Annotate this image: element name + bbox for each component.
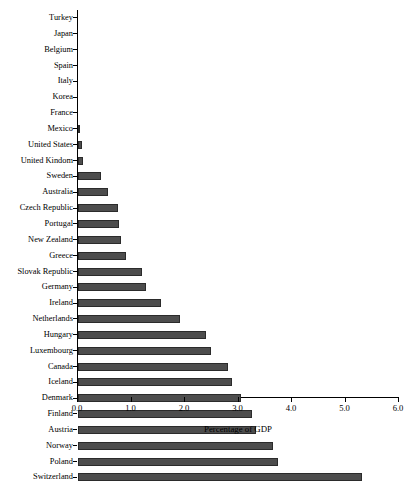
- x-axis-title: Percentage of GDP: [77, 424, 399, 434]
- chart-row: Japan: [0, 26, 413, 42]
- bar-track: [78, 10, 399, 26]
- bar-track: [78, 26, 399, 42]
- category-label: Iceland: [0, 374, 73, 390]
- chart-row: Netherlands: [0, 311, 413, 327]
- bar[interactable]: [78, 252, 126, 260]
- bar-track: [78, 168, 399, 184]
- y-axis-tick: [73, 287, 77, 288]
- bar-track: [78, 105, 399, 121]
- y-axis-tick: [73, 208, 77, 209]
- bar[interactable]: [78, 331, 206, 339]
- bar[interactable]: [78, 268, 142, 276]
- chart-row: Slovak Republic: [0, 264, 413, 280]
- y-axis-tick: [73, 350, 77, 351]
- y-axis-tick: [73, 334, 77, 335]
- y-axis-tick: [73, 144, 77, 145]
- bar[interactable]: [78, 473, 362, 481]
- category-label: United States: [0, 137, 73, 153]
- bar-track: [78, 279, 399, 295]
- bar[interactable]: [78, 188, 108, 196]
- chart-row: Ireland: [0, 295, 413, 311]
- bar-track: [78, 89, 399, 105]
- bar-track: [78, 343, 399, 359]
- chart-row: Greece: [0, 248, 413, 264]
- bar[interactable]: [78, 204, 118, 212]
- y-axis-tick: [73, 17, 77, 18]
- category-label: Germany: [0, 279, 73, 295]
- category-label: Turkey: [0, 10, 73, 26]
- category-label: Sweden: [0, 168, 73, 184]
- bar[interactable]: [78, 442, 273, 450]
- x-axis-tick-label: 4.0: [271, 403, 311, 413]
- bar[interactable]: [78, 141, 82, 149]
- y-axis-tick: [73, 33, 77, 34]
- y-axis-tick: [73, 176, 77, 177]
- chart-row: Canada: [0, 359, 413, 375]
- bar-track: [78, 121, 399, 137]
- y-axis-tick: [73, 112, 77, 113]
- chart-row: Turkey: [0, 10, 413, 26]
- chart-row: Mexico: [0, 121, 413, 137]
- bar[interactable]: [78, 236, 121, 244]
- x-axis-tick-label: 3.0: [218, 403, 258, 413]
- y-axis-tick: [73, 192, 77, 193]
- chart-row: Belgium: [0, 42, 413, 58]
- y-axis-tick: [73, 318, 77, 319]
- category-label: Czech Republic: [0, 200, 73, 216]
- y-axis-tick: [73, 81, 77, 82]
- bar[interactable]: [78, 125, 80, 133]
- chart-row: Germany: [0, 279, 413, 295]
- chart-row: Poland: [0, 454, 413, 470]
- bar[interactable]: [78, 299, 161, 307]
- category-label: Japan: [0, 26, 73, 42]
- y-axis-tick: [73, 477, 77, 478]
- y-axis-tick: [73, 382, 77, 383]
- y-axis-tick: [73, 65, 77, 66]
- y-axis-tick: [73, 303, 77, 304]
- category-label: Canada: [0, 359, 73, 375]
- bar-track: [78, 295, 399, 311]
- bar[interactable]: [78, 172, 101, 180]
- category-label: Norway: [0, 438, 73, 454]
- bar[interactable]: [78, 220, 119, 228]
- bar[interactable]: [78, 458, 278, 466]
- bar-track: [78, 264, 399, 280]
- chart-row: Switzerland: [0, 469, 413, 485]
- bar-track: [78, 42, 399, 58]
- y-axis-tick: [73, 271, 77, 272]
- chart-row: Luxembourg: [0, 343, 413, 359]
- y-axis-tick: [73, 239, 77, 240]
- bar[interactable]: [78, 315, 180, 323]
- chart-row: Iceland: [0, 374, 413, 390]
- chart-row: Australia: [0, 184, 413, 200]
- category-label: Luxembourg: [0, 343, 73, 359]
- x-axis-tick: [184, 397, 185, 402]
- y-axis-tick: [73, 223, 77, 224]
- category-label: Belgium: [0, 42, 73, 58]
- y-axis-tick: [73, 49, 77, 50]
- category-label: Poland: [0, 454, 73, 470]
- category-label: Korea: [0, 89, 73, 105]
- x-axis-tick-label: 0.0: [57, 403, 97, 413]
- category-label: Netherlands: [0, 311, 73, 327]
- bar[interactable]: [78, 157, 83, 165]
- chart-row: Spain: [0, 58, 413, 74]
- bar[interactable]: [78, 347, 211, 355]
- category-label: Greece: [0, 248, 73, 264]
- bar-track: [78, 184, 399, 200]
- bar[interactable]: [78, 283, 146, 291]
- y-axis-tick: [73, 255, 77, 256]
- bar-track: [78, 311, 399, 327]
- bar[interactable]: [78, 378, 232, 386]
- bar-track: [78, 73, 399, 89]
- x-axis-tick-label: 5.0: [325, 403, 365, 413]
- x-axis-tick: [398, 397, 399, 402]
- chart-row: Korea: [0, 89, 413, 105]
- bar[interactable]: [78, 363, 228, 371]
- chart-row: Sweden: [0, 168, 413, 184]
- chart-row: France: [0, 105, 413, 121]
- category-label: Slovak Republic: [0, 264, 73, 280]
- y-axis-tick: [73, 128, 77, 129]
- bar-track: [78, 232, 399, 248]
